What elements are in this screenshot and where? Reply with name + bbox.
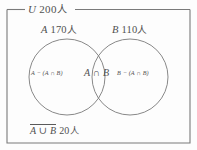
complement-count: 20人: [56, 125, 78, 136]
region-a-only-label: A − (A ∩ B): [31, 70, 63, 76]
complement-overline: A ∪ B: [30, 124, 56, 136]
set-a-label: A 170人: [41, 25, 77, 36]
region-b-only-label: B − (A ∩ B): [117, 70, 149, 76]
complement-label: A ∪ B 20人: [30, 124, 79, 136]
region-intersection-label: A ∩ B: [84, 68, 109, 78]
set-b-label: B 110人: [112, 25, 148, 36]
venn-diagram-figure: U 200人 A 170人 B 110人 A − (A ∩ B) A ∩ B B…: [0, 0, 197, 150]
universe-label: U 200人: [28, 4, 67, 15]
